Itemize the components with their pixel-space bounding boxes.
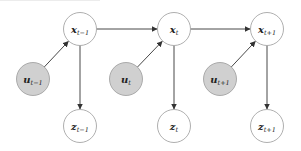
- nodes-group: xt−1xtxt+1ut−1utut+1zt−1ztzt+1: [17, 13, 284, 143]
- edge-u_t-to-x_t: [137, 41, 162, 67]
- node-x_t: xt: [158, 13, 191, 46]
- node-z_t+1: zt+1: [251, 110, 284, 143]
- node-x_t+1: xt+1: [251, 13, 284, 46]
- edge-u_t+1-to-x_t+1: [231, 41, 255, 67]
- node-u_t+1: ut+1: [204, 63, 237, 96]
- edge-u_t-1-to-x_t-1: [44, 41, 68, 67]
- node-u_t-1: ut−1: [17, 63, 50, 96]
- graphical-model-diagram: xt−1xtxt+1ut−1utut+1zt−1ztzt+1: [0, 0, 301, 151]
- node-z_t-1: zt−1: [64, 110, 97, 143]
- node-z_t: zt: [158, 110, 191, 143]
- node-x_t-1: xt−1: [64, 13, 97, 46]
- node-u_t: ut: [110, 63, 143, 96]
